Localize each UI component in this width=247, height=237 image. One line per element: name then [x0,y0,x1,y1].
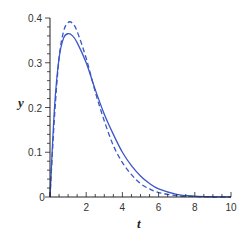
x-tick-label: 6 [156,202,162,213]
origin-label: 0 [39,192,45,203]
dashed-curve [50,22,231,197]
solid-curve [50,34,231,197]
x-tick-label: 4 [120,202,126,213]
tick-labels: 02468100.10.20.30.4 [28,13,237,213]
x-tick-label: 8 [192,202,198,213]
y-tick-label: 0.4 [28,13,42,24]
y-tick-label: 0.1 [28,147,42,158]
x-axis-label: t [137,216,141,231]
x-tick-label: 10 [225,202,237,213]
curves [50,22,231,197]
y-tick-label: 0.3 [28,58,42,69]
y-tick-label: 0.2 [28,103,42,114]
x-tick-label: 2 [83,202,89,213]
axes [45,18,231,197]
y-axis-label: y [16,95,24,110]
line-chart: 02468100.10.20.30.4 t y [0,0,247,237]
